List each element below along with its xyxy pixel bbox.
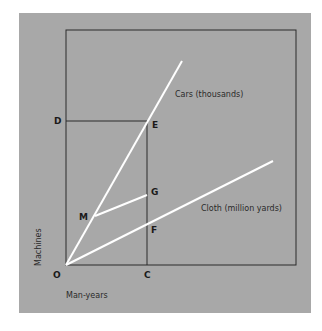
cloth-ray: [66, 161, 273, 265]
cloth-line-label: Cloth (million yards): [201, 204, 282, 213]
point-label-E: E: [152, 120, 158, 130]
point-label-M: M: [79, 212, 88, 222]
x-axis-label: Man-years: [66, 291, 108, 300]
isoquant-diagram: [0, 0, 322, 331]
plot-frame: [66, 30, 296, 265]
y-axis-label: Machines: [34, 228, 43, 266]
point-label-D: D: [54, 116, 61, 126]
cars-line-label: Cars (thousands): [175, 90, 243, 99]
point-label-O: O: [53, 270, 61, 280]
point-label-G: G: [151, 187, 158, 197]
point-label-C: C: [144, 270, 151, 280]
point-label-F: F: [151, 225, 157, 235]
line-MG: [95, 195, 147, 216]
cars-ray: [66, 61, 182, 265]
